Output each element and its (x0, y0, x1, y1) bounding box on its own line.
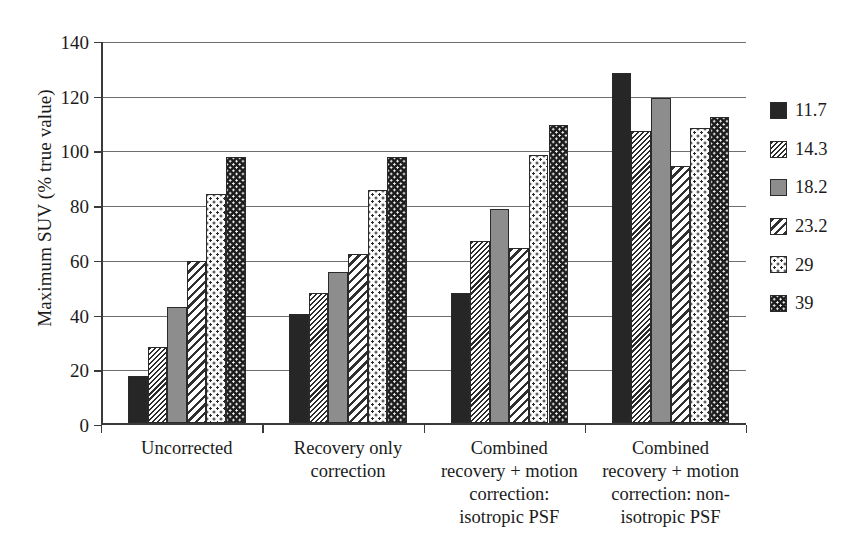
y-tick-label: 0 (80, 416, 90, 435)
y-axis-line (101, 42, 103, 425)
legend-swatch-icon (770, 102, 787, 119)
x-tick-mark (585, 425, 586, 433)
bar (509, 248, 529, 423)
legend-swatch-icon (770, 256, 787, 273)
x-axis-category-line: correction (267, 460, 428, 483)
y-tick-mark (94, 425, 101, 426)
y-tick-mark (94, 370, 101, 371)
x-tick-mark (262, 425, 263, 433)
legend-item[interactable]: 14.3 (770, 140, 856, 159)
x-axis-category-line: recovery + motion (429, 460, 590, 483)
bar (470, 241, 490, 423)
x-axis-category-line: Recovery only (267, 437, 428, 460)
x-axis-category-label: Combinedrecovery + motioncorrection:isot… (429, 437, 590, 529)
x-axis-category-line: Uncorrected (106, 437, 267, 460)
y-tick-label: 40 (70, 306, 89, 325)
x-axis-category-label: Combinedrecovery + motioncorrection: non… (590, 437, 751, 529)
bars-layer (101, 42, 746, 423)
legend-label: 11.7 (795, 101, 827, 120)
bar (328, 272, 348, 424)
bar-chart: Maximum SUV (% true value) 0204060801001… (0, 0, 859, 552)
bar (368, 190, 388, 424)
legend-swatch-icon (770, 179, 787, 196)
legend-item[interactable]: 23.2 (770, 217, 856, 236)
legend-label: 39 (795, 294, 814, 313)
bar (612, 73, 632, 423)
bar (289, 314, 309, 423)
y-tick-mark (94, 42, 101, 43)
legend-item[interactable]: 18.2 (770, 178, 856, 197)
y-tick-label: 60 (70, 251, 89, 270)
x-axis-category-line: recovery + motion (590, 460, 751, 483)
legend-swatch-icon (770, 295, 787, 312)
x-axis-category-line: correction: (429, 483, 590, 506)
legend-item[interactable]: 29 (770, 255, 856, 274)
x-tick-mark (101, 425, 102, 433)
bar (148, 347, 168, 424)
bar-group (612, 42, 730, 423)
x-axis-category-line: Combined (590, 437, 751, 460)
x-axis-category-line: isotropic PSF (590, 506, 751, 529)
bar (309, 293, 329, 423)
legend: 11.714.318.223.22939 (770, 101, 856, 333)
bar (529, 155, 549, 423)
bar (128, 376, 148, 424)
x-axis-category-label: Uncorrected (106, 437, 267, 460)
bar-group (451, 42, 569, 423)
bar (549, 125, 569, 423)
y-tick-mark (94, 97, 101, 98)
bar (710, 117, 730, 423)
legend-label: 18.2 (795, 178, 827, 197)
bar (490, 209, 510, 424)
y-tick-label: 20 (70, 361, 89, 380)
bar (690, 128, 710, 423)
y-tick-mark (94, 206, 101, 207)
y-tick-mark (94, 151, 101, 152)
bar (631, 131, 651, 424)
x-axis-category-line: isotropic PSF (429, 506, 590, 529)
bar (187, 261, 207, 424)
y-tick-label: 120 (61, 87, 90, 106)
x-axis-category-line: correction: non- (590, 483, 751, 506)
bar (167, 307, 187, 423)
y-axis-title: Maximum SUV (% true value) (34, 58, 58, 358)
x-tick-mark (424, 425, 425, 433)
bar (206, 194, 226, 424)
bar (651, 98, 671, 424)
y-tick-label: 140 (61, 33, 90, 52)
x-tick-mark (746, 425, 747, 433)
legend-swatch-icon (770, 141, 787, 158)
bar (387, 157, 407, 424)
x-axis-category-label: Recovery onlycorrection (267, 437, 428, 483)
x-axis-category-line: Combined (429, 437, 590, 460)
bar-group (128, 42, 246, 423)
bar (671, 166, 691, 423)
bar-group (289, 42, 407, 423)
bar (226, 157, 246, 424)
legend-item[interactable]: 11.7 (770, 101, 856, 120)
legend-label: 14.3 (795, 140, 827, 159)
legend-label: 23.2 (795, 217, 827, 236)
y-tick-mark (94, 316, 101, 317)
y-tick-label: 100 (61, 142, 90, 161)
plot-area: 020406080100120140 (101, 42, 746, 425)
legend-label: 29 (795, 256, 814, 275)
bar (451, 293, 471, 423)
y-tick-label: 80 (70, 197, 89, 216)
legend-swatch-icon (770, 218, 787, 235)
bar (348, 254, 368, 424)
y-tick-mark (94, 261, 101, 262)
legend-item[interactable]: 39 (770, 294, 856, 313)
